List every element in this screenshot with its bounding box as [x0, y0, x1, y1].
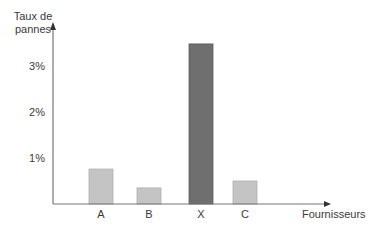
bar-b: [137, 188, 161, 204]
y-axis-label-line2: pannes: [15, 23, 52, 35]
x-tick-label: B: [145, 208, 152, 220]
bar-x: [189, 44, 213, 204]
y-tick-labels: 1%2%3%: [29, 60, 45, 164]
y-axis-label-line1: Taux de: [14, 10, 53, 22]
bar-a: [89, 169, 113, 204]
bar-chart: ABXC 1%2%3% Taux de pannes Fournisseurs: [0, 0, 382, 231]
x-tick-labels: ABXC: [97, 208, 249, 220]
bar-c: [233, 181, 257, 204]
y-tick-label: 2%: [29, 106, 45, 118]
y-tick-label: 3%: [29, 60, 45, 72]
x-tick-label: A: [97, 208, 105, 220]
bars-group: [89, 44, 257, 204]
y-tick-label: 1%: [29, 152, 45, 164]
x-tick-label: X: [197, 208, 205, 220]
x-axis-label: Fournisseurs: [302, 208, 366, 220]
x-tick-label: C: [241, 208, 249, 220]
x-axis-arrow-icon: [324, 201, 331, 207]
